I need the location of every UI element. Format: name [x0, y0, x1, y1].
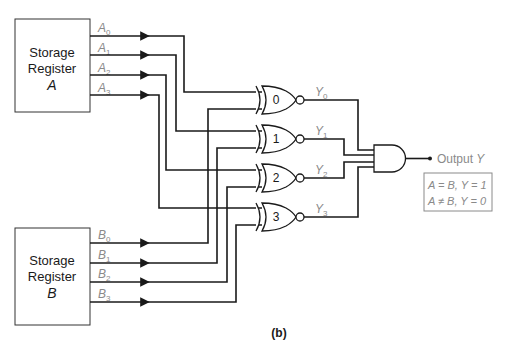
inverter-bubble-3	[296, 213, 304, 221]
register-a-line1: Storage	[29, 45, 75, 60]
inverter-bubble-2	[296, 174, 304, 182]
output-label: Output Y	[437, 152, 485, 166]
register-a-output-labels: A0 A1 A2 A3	[97, 21, 111, 97]
signal-label-y0: Y0	[315, 85, 328, 101]
signal-label-b2: B2	[98, 267, 111, 283]
wire-b2	[143, 187, 262, 282]
signal-label-b0: B0	[98, 228, 111, 244]
storage-register-a: Storage Register A	[15, 19, 90, 112]
xnor-gate-2: 2	[256, 164, 304, 192]
xnor-gate-1: 1	[256, 125, 304, 153]
register-a-letter: A	[46, 77, 56, 93]
xnor-output-labels: Y0 Y1 Y2 Y3	[315, 85, 328, 218]
output: Output Y	[405, 152, 485, 166]
signal-label-y3: Y3	[315, 202, 328, 218]
register-b-output-labels: B0 B1 B2 B3	[98, 228, 111, 303]
wire-b0	[143, 109, 262, 243]
truth-box: A = B, Y = 1 A ≠ B, Y = 0	[424, 173, 492, 211]
figure-caption: (b)	[271, 326, 286, 340]
register-b-letter: B	[47, 285, 56, 301]
signal-label-b1: B1	[98, 248, 111, 264]
signal-label-y2: Y2	[315, 163, 328, 179]
wire-b1	[143, 148, 262, 263]
gate-label-1: 1	[273, 132, 280, 146]
xnor-gate-0: 0	[256, 86, 304, 114]
wire-a3	[143, 95, 262, 208]
gate-label-3: 3	[273, 210, 280, 224]
wire-a0	[143, 36, 262, 92]
xnor-gate-3: 3	[256, 203, 304, 231]
signal-label-b3: B3	[98, 287, 111, 303]
inverter-bubble-0	[296, 96, 304, 104]
storage-register-b: Storage Register B	[15, 228, 90, 325]
truth-line-1: A = B, Y = 1	[427, 179, 487, 191]
wire-y1	[304, 139, 374, 155]
and-gate	[374, 145, 406, 172]
wire-a1	[143, 55, 262, 131]
register-b-wires	[90, 109, 262, 302]
register-a-line2: Register	[28, 61, 77, 76]
magnitude-comparator-diagram: Storage Register A A0 A1 A2 A3 Storage R…	[0, 0, 509, 351]
inverter-bubble-1	[296, 135, 304, 143]
y-wires	[304, 100, 374, 217]
register-b-line1: Storage	[29, 253, 75, 268]
signal-label-a0: A0	[97, 21, 111, 37]
wire-a2	[143, 75, 262, 170]
truth-line-2: A ≠ B, Y = 0	[427, 195, 487, 207]
register-b-line2: Register	[28, 269, 77, 284]
output-dot	[428, 157, 432, 161]
register-a-wires	[90, 36, 262, 208]
signal-label-y1: Y1	[315, 124, 328, 140]
gate-label-2: 2	[273, 171, 280, 185]
gate-label-0: 0	[273, 93, 280, 107]
